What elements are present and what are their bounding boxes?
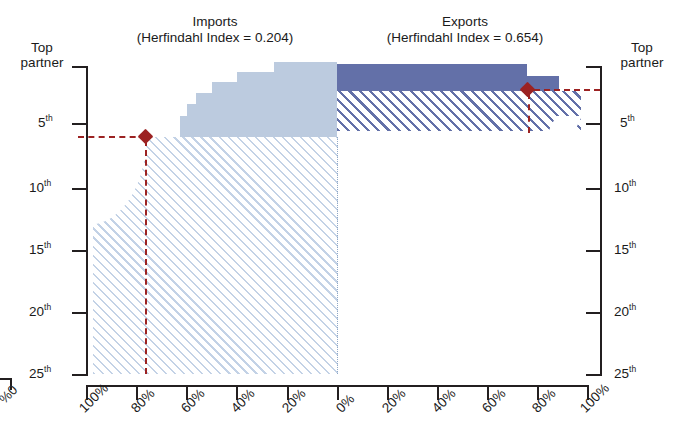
left-label-15th: 15th [29,241,51,257]
chart-canvas: Imports (Herfindahl Index = 0.204) Expor… [0,0,688,442]
left-label-25th-num: 25 [29,366,44,381]
left-label-20th: 20th [29,303,51,319]
left-label-15th-num: 15 [29,242,44,257]
x-label-0: 100% [76,381,111,416]
right-label-20th-num: 20 [614,304,629,319]
left-tick-25th [72,374,88,376]
right-label-10th-num: 10 [614,180,629,195]
exports-hatched-area [337,91,581,131]
right-tick-10th [586,188,602,190]
imports-step-2 [237,72,274,137]
right-label-5th-sup: th [628,113,635,123]
left-label-20th-num: 20 [29,304,44,319]
imports-title-line1: Imports [110,14,320,30]
right-label-5th: 5th [620,114,635,130]
right-label-10th: 10th [614,179,636,195]
left-label-20th-sup: th [44,302,51,312]
right-label-15th-sup: th [629,240,636,250]
left-label-5th-num: 5 [38,115,46,130]
left-label-top-line1: Top [31,40,53,55]
right-label-top-line1: Top [631,40,653,55]
left-label-top-partner: Top partner [16,41,68,70]
right-label-25th-sup: th [629,364,636,374]
left-label-15th-sup: th [44,240,51,250]
exports-step-1 [337,64,527,91]
imports-step-4 [196,93,212,137]
left-tick-10th [72,188,88,190]
imports-title-line2: (Herfindahl Index = 0.204) [110,30,320,46]
x-label-6: 20% [379,386,409,416]
imports-step-3 [212,82,237,137]
x-label-7: 40% [429,386,459,416]
exports-guide-vertical [528,93,530,133]
exports-title-line2: (Herfindahl Index = 0.654) [355,30,575,46]
x-label-3: 40% [228,386,258,416]
exports-title-line1: Exports [355,14,575,30]
x-label-4: 20% [279,386,309,416]
edge-fragment-label: %0 [0,382,20,406]
left-axis-line [86,66,88,376]
left-tick-5th [72,123,88,125]
right-label-15th: 15th [614,241,636,257]
left-label-5th: 5th [38,114,53,130]
left-tick-top [72,66,88,68]
imports-step-1 [274,62,337,137]
left-label-top-line2: partner [21,55,64,70]
left-label-5th-sup: th [46,113,53,123]
right-label-25th-num: 25 [614,366,629,381]
left-label-10th: 10th [29,179,51,195]
right-axis-line [600,66,602,376]
right-label-15th-num: 15 [614,242,629,257]
right-tick-20th [586,312,602,314]
right-label-5th-num: 5 [620,115,628,130]
imports-step-5 [187,104,196,137]
right-label-10th-sup: th [629,178,636,188]
imports-step-6 [180,116,187,137]
imports-panel-title: Imports (Herfindahl Index = 0.204) [110,14,320,45]
exports-panel-title: Exports (Herfindahl Index = 0.654) [355,14,575,45]
right-label-25th: 25th [614,365,636,381]
exports-guide-horizontal [534,89,600,91]
x-label-9: 80% [529,386,559,416]
left-tick-20th [72,312,88,314]
left-label-10th-sup: th [44,178,51,188]
right-tick-5th [586,123,602,125]
right-tick-top [586,66,602,68]
right-label-top-line2: partner [621,55,664,70]
right-tick-15th [586,250,602,252]
right-label-20th: 20th [614,303,636,319]
left-label-10th-num: 10 [29,180,44,195]
left-tick-15th [72,250,88,252]
left-label-25th-sup: th [44,364,51,374]
imports-guide-vertical [145,140,147,374]
x-label-1: 80% [128,386,158,416]
x-label-8: 60% [479,386,509,416]
right-tick-25th [586,374,602,376]
x-label-2: 60% [178,386,208,416]
right-label-20th-sup: th [629,302,636,312]
left-label-25th: 25th [29,365,51,381]
right-label-top-partner: Top partner [614,41,670,70]
